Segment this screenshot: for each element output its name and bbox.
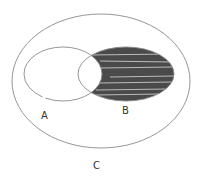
set-a-label: A [41,110,48,121]
venn-diagram: A B C [0,0,198,178]
set-b-label: B [122,105,129,116]
shaded-region-b-minus-a [70,40,190,110]
set-c-label: C [93,160,100,171]
